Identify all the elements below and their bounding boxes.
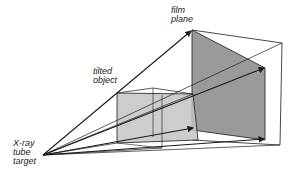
- x-ray-source-label-line3: target: [13, 157, 36, 166]
- diagram-canvas: film plane tilted object X-ray tube targ…: [0, 0, 294, 179]
- x-ray-source-label: X-ray tube target: [13, 139, 36, 166]
- film-plane-label: film plane: [171, 6, 193, 24]
- film-plane-label-line2: plane: [171, 15, 193, 24]
- tilted-object-front: [117, 93, 198, 143]
- projection-diagram: [0, 0, 294, 179]
- film-plane-shadow: [192, 30, 265, 140]
- tilted-object-label-line2: object: [93, 76, 117, 85]
- tilted-object-label: tilted object: [93, 67, 117, 85]
